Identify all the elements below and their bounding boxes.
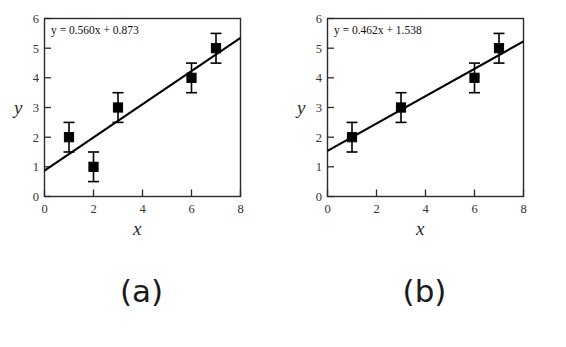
x-tick-8: 8	[520, 202, 526, 216]
x-tick-2: 2	[90, 202, 96, 216]
x-tick-2: 2	[373, 202, 379, 216]
y-axis-ticklabels-b: 0 1 2 3 4 5 6	[316, 12, 323, 204]
y-axis-label-a: y	[14, 98, 22, 117]
panel-caption-b: (b)	[283, 276, 566, 307]
data-point	[347, 122, 358, 152]
x-axis-label-b: x	[416, 219, 424, 238]
y-tick-0: 0	[316, 190, 322, 204]
x-tick-4: 4	[139, 202, 146, 216]
x-axis-label-a: x	[133, 219, 141, 238]
plot-area-b: 0 1 2 3 4 5 6 0 2 4 6 8	[283, 0, 566, 260]
y-axis-label-b: y	[297, 98, 305, 117]
x-tick-8: 8	[237, 202, 243, 216]
panel-a: 0 1 2 3 4 5 6 0 2 4 6 8	[0, 0, 283, 347]
x-axis-ticklabels-b: 0 2 4 6 8	[324, 202, 526, 216]
y-tick-2: 2	[33, 131, 39, 145]
data-point	[396, 93, 407, 123]
data-series-a	[64, 33, 222, 181]
regression-equation-a: y = 0.560x + 0.873	[51, 24, 139, 37]
y-tick-4: 4	[33, 71, 40, 85]
x-tick-4: 4	[422, 202, 429, 216]
y-tick-1: 1	[33, 160, 39, 174]
x-axis-ticks-b	[328, 190, 524, 197]
plot-area-a: 0 1 2 3 4 5 6 0 2 4 6 8	[0, 0, 283, 260]
y-tick-0: 0	[33, 190, 39, 204]
data-point	[64, 122, 75, 152]
regression-line-a	[45, 38, 241, 171]
y-tick-6: 6	[316, 12, 322, 26]
regression-equation-b: y = 0.462x + 1.538	[334, 24, 422, 37]
y-tick-2: 2	[316, 131, 322, 145]
y-tick-5: 5	[316, 42, 322, 56]
x-tick-6: 6	[188, 202, 194, 216]
x-tick-0: 0	[41, 202, 47, 216]
y-tick-5: 5	[33, 42, 39, 56]
figure-two-panel-scatter: 0 1 2 3 4 5 6 0 2 4 6 8	[0, 0, 566, 347]
x-axis-ticks-a	[45, 190, 241, 197]
y-axis-ticks-b	[328, 19, 335, 197]
data-point	[88, 152, 99, 182]
y-tick-3: 3	[316, 101, 322, 115]
x-axis-ticklabels-a: 0 2 4 6 8	[41, 202, 243, 216]
x-tick-0: 0	[324, 202, 330, 216]
y-axis-ticklabels-a: 0 1 2 3 4 5 6	[33, 12, 40, 204]
data-series-b	[347, 33, 505, 152]
y-tick-6: 6	[33, 12, 39, 26]
x-tick-6: 6	[471, 202, 477, 216]
data-point	[211, 33, 222, 63]
y-tick-4: 4	[316, 71, 323, 85]
panel-b: 0 1 2 3 4 5 6 0 2 4 6 8	[283, 0, 566, 347]
y-tick-3: 3	[33, 101, 39, 115]
data-point	[494, 33, 505, 63]
y-tick-1: 1	[316, 160, 322, 174]
panel-caption-a: (a)	[0, 276, 283, 307]
